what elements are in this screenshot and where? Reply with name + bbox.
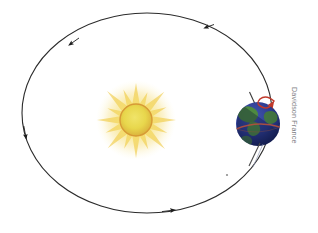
orbit-diagram [0, 0, 318, 233]
sun-graphic [96, 80, 176, 160]
orbit-arrow-top-left [71, 38, 80, 44]
diagram-canvas: Davidson France [0, 0, 318, 233]
credit-label: Davidson France [287, 87, 301, 149]
orbit-reference-dot [226, 174, 228, 176]
sun-disk [120, 104, 152, 136]
earth-graphic [236, 102, 280, 148]
